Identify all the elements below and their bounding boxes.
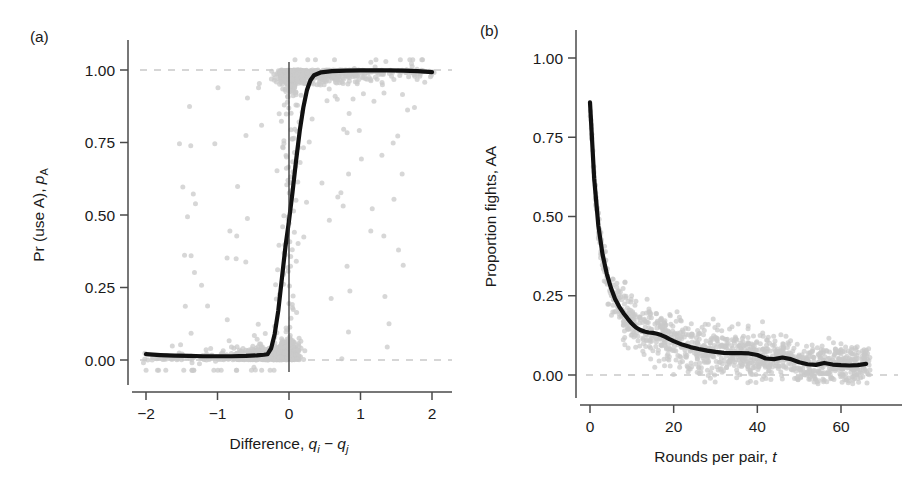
data-point [319, 180, 324, 185]
data-point [183, 304, 188, 309]
data-point [299, 93, 304, 98]
data-point [428, 74, 433, 79]
data-point [648, 345, 653, 350]
data-point [674, 358, 679, 363]
data-point [737, 343, 742, 348]
data-point [706, 322, 711, 327]
data-point [301, 235, 306, 240]
data-point [753, 380, 758, 385]
x-tick-label: 40 [749, 418, 767, 435]
data-point [361, 91, 366, 96]
data-point [679, 319, 684, 324]
data-point [391, 77, 396, 82]
data-point [746, 324, 751, 329]
data-point [751, 334, 756, 339]
data-point [654, 320, 659, 325]
data-point [633, 345, 638, 350]
data-point [419, 57, 424, 62]
data-point [295, 103, 300, 108]
data-point [178, 342, 183, 347]
data-point [296, 348, 301, 353]
data-point [791, 366, 796, 371]
data-point [760, 319, 765, 324]
data-point [212, 141, 217, 146]
data-point [189, 331, 194, 336]
data-point [864, 381, 869, 386]
data-point [640, 336, 645, 341]
data-point [353, 73, 358, 78]
data-point [768, 363, 773, 368]
data-point [356, 77, 361, 82]
data-point [797, 354, 802, 359]
data-point [368, 229, 373, 234]
data-point [704, 338, 709, 343]
data-point [334, 81, 339, 86]
data-point [867, 367, 872, 372]
x-tick-label: −2 [137, 405, 155, 422]
data-point [701, 332, 706, 337]
data-point [783, 334, 788, 339]
data-point [271, 351, 276, 356]
data-point [227, 338, 232, 343]
data-point [670, 329, 675, 334]
data-point [763, 372, 768, 377]
data-point [415, 77, 420, 82]
data-point [290, 247, 295, 252]
data-point [815, 381, 820, 386]
data-point [294, 310, 299, 315]
data-point [249, 346, 254, 351]
data-point [281, 213, 286, 218]
data-point [605, 302, 610, 307]
data-point [805, 370, 810, 375]
data-point [239, 349, 244, 354]
data-point [278, 344, 283, 349]
data-point [838, 341, 843, 346]
data-point [191, 368, 196, 373]
y-tick-label: 0.25 [85, 279, 115, 296]
data-point [379, 153, 384, 158]
data-point [758, 341, 763, 346]
data-point [346, 73, 351, 78]
data-point [280, 224, 285, 229]
data-point [689, 360, 694, 365]
data-point [391, 140, 396, 145]
data-point [141, 360, 146, 365]
data-point [725, 337, 730, 342]
data-point [652, 365, 657, 370]
data-point [826, 336, 831, 341]
data-point [674, 319, 679, 324]
data-point [329, 296, 334, 301]
data-point [846, 380, 851, 385]
data-point [630, 329, 635, 334]
data-point [626, 299, 631, 304]
data-point [410, 57, 415, 62]
data-point [204, 347, 209, 352]
data-point [313, 57, 318, 62]
data-point [709, 365, 714, 370]
data-point [235, 184, 240, 189]
panel-b-point-cloud [588, 109, 873, 387]
data-point [611, 303, 616, 308]
data-point [670, 324, 675, 329]
data-point [831, 377, 836, 382]
data-point [718, 343, 723, 348]
data-point [362, 73, 367, 78]
data-point [405, 107, 410, 112]
data-point [347, 111, 352, 116]
data-point [734, 337, 739, 342]
data-point [396, 248, 401, 253]
data-point [791, 346, 796, 351]
data-point [711, 317, 716, 322]
data-point [170, 344, 175, 349]
data-point [794, 375, 799, 380]
data-point [291, 293, 296, 298]
data-point [677, 365, 682, 370]
y-tick-label: 0.25 [533, 287, 563, 304]
data-point [290, 305, 295, 310]
data-point [281, 141, 286, 146]
x-tick-label: 60 [832, 418, 850, 435]
data-point [696, 365, 701, 370]
data-point [726, 359, 731, 364]
data-point [611, 277, 616, 282]
data-point [855, 367, 860, 372]
